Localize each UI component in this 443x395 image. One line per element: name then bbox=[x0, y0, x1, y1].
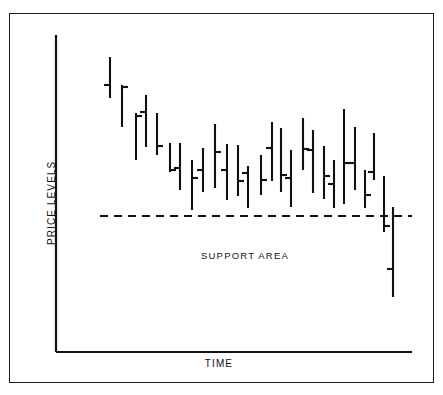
ohlc-bar bbox=[384, 176, 390, 232]
ohlc-bar bbox=[104, 57, 110, 98]
ohlc-bar bbox=[387, 207, 393, 297]
ohlc-bar bbox=[303, 118, 309, 170]
x-axis-label: TIME bbox=[205, 358, 233, 369]
y-axis-label: PRICE LEVELS bbox=[46, 161, 57, 245]
ohlc-bar bbox=[281, 128, 287, 192]
ohlc-bars bbox=[104, 57, 393, 297]
ohlc-bar bbox=[238, 145, 244, 196]
ohlc-bar bbox=[197, 148, 203, 192]
ohlc-bar bbox=[344, 109, 350, 204]
ohlc-chart-canvas bbox=[0, 0, 443, 395]
support-area-annotation: SUPPORT AREA bbox=[201, 250, 289, 261]
ohlc-bar bbox=[174, 143, 180, 190]
ohlc-bar bbox=[192, 160, 198, 210]
ohlc-bar bbox=[215, 124, 221, 188]
ohlc-bar bbox=[122, 85, 128, 127]
ohlc-bar bbox=[365, 170, 371, 208]
ohlc-bar bbox=[221, 144, 227, 200]
ohlc-bar bbox=[307, 130, 313, 193]
chart-figure: PRICE LEVELS TIME SUPPORT AREA bbox=[0, 0, 443, 395]
ohlc-bar bbox=[136, 113, 142, 160]
ohlc-bar bbox=[242, 166, 248, 208]
ohlc-bar bbox=[261, 155, 267, 195]
ohlc-bar bbox=[140, 95, 146, 147]
ohlc-bar bbox=[285, 150, 291, 207]
ohlc-bar bbox=[324, 146, 330, 199]
ohlc-bar bbox=[328, 160, 334, 208]
ohlc-bar bbox=[266, 122, 272, 181]
ohlc-bar bbox=[368, 133, 374, 180]
ohlc-bar bbox=[157, 113, 163, 155]
ohlc-bar bbox=[349, 127, 355, 190]
y-axis-label-wrapper: PRICE LEVELS bbox=[46, 245, 56, 255]
